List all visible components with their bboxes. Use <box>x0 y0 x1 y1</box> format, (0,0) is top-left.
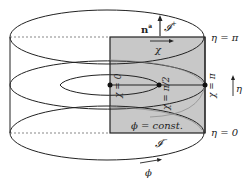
eta-zero-label: η = 0 <box>211 127 239 138</box>
chi-pi-label: χ = π <box>207 72 217 99</box>
phi-arrowhead-icon <box>157 158 162 162</box>
normal-label: na <box>141 22 152 35</box>
normal-arrowhead-icon <box>158 15 163 21</box>
chi-zero-dot <box>108 83 113 88</box>
phi-arrow-icon <box>140 160 158 163</box>
eta-pi-label: η = π <box>211 32 239 43</box>
cylinder-diagram: na 𝓘+ χ η = π η = 0 η χ = 0 χ = π/2 χ = … <box>0 0 249 181</box>
eta-arrow-label: η <box>236 83 242 94</box>
scri-minus-label: 𝓘− <box>155 136 168 149</box>
phi-arrow-label: ϕ <box>145 167 152 178</box>
scri-plus-label: 𝓘+ <box>164 20 177 33</box>
chi-half-pi-label: χ = π/2 <box>161 76 171 111</box>
phi-const-label: ϕ = const. <box>131 120 183 131</box>
eta-arrowhead-icon <box>231 75 235 80</box>
chi-zero-label: χ = 0 <box>113 73 123 99</box>
chi-arrow-label: χ <box>154 44 162 55</box>
